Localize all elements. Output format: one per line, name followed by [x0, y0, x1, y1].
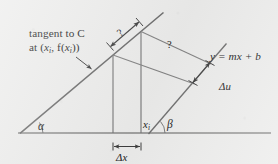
parallelogram-edge-top	[141, 32, 211, 65]
tangent-caption-line1: tangent to C	[29, 27, 85, 40]
line-equation-label: y = mx + b	[210, 50, 261, 63]
tangent-caption-prefix: at (	[29, 41, 44, 53]
x-i-label: xi	[143, 118, 150, 132]
figure-canvas: tangent to C at (xi, f(xi)) ? ? y = mx +…	[0, 0, 278, 164]
question-mark-parallel-label: ?	[167, 39, 172, 51]
delta-u-measure-line	[193, 63, 210, 83]
x-i-sub: i	[148, 123, 150, 132]
tangent-caption-suffix: ))	[72, 41, 80, 53]
parallelogram-edge-bottom	[113, 55, 195, 84]
delta-u-tick-lower	[189, 81, 198, 86]
tangent-caption-mid: , f(	[51, 41, 64, 53]
delta-x-label: Δx	[116, 151, 127, 163]
geometry-drawing	[0, 0, 278, 164]
tangent-caption-leader-arrow	[76, 57, 92, 69]
angle-alpha-label: α	[38, 120, 44, 133]
angle-beta-arc	[161, 122, 166, 134]
tangent-caption-line2: at (xi, f(xi))	[29, 41, 80, 55]
tangent-question-tick-lower	[107, 43, 114, 51]
tangent-question-tick-upper	[136, 18, 143, 26]
delta-u-label: Δu	[219, 80, 231, 92]
angle-beta-label: β	[167, 118, 173, 131]
